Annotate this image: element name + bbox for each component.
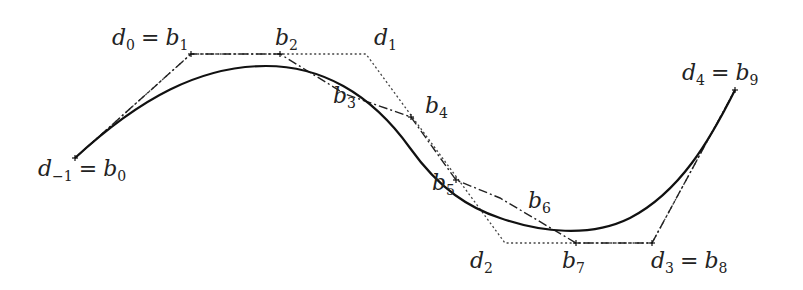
label-d4-b9: d4=b9 bbox=[682, 62, 758, 87]
label-b5: b5 bbox=[432, 172, 455, 197]
label-d0-b1: d0=b1 bbox=[112, 27, 188, 52]
label-b4: b4 bbox=[425, 95, 448, 120]
point-markers bbox=[72, 51, 738, 246]
label-d-1-b0: d−1=b0 bbox=[38, 158, 126, 183]
label-b6: b6 bbox=[528, 190, 551, 215]
spline-curve-refined bbox=[75, 66, 735, 231]
label-b2: b2 bbox=[275, 27, 298, 52]
label-d3-b8: d3=b8 bbox=[651, 250, 727, 275]
label-d1: d1 bbox=[374, 27, 397, 52]
label-d2: d2 bbox=[470, 250, 493, 275]
label-b3: b3 bbox=[333, 85, 356, 110]
label-b7: b7 bbox=[562, 250, 585, 275]
